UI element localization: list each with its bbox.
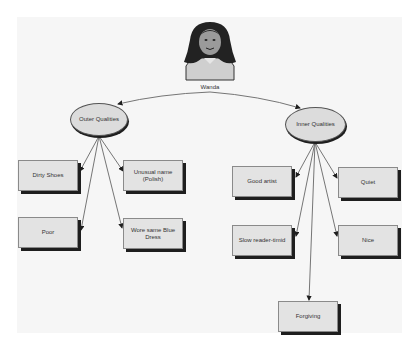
node-slow-reader-timid[interactable]: Slow reader-timid — [232, 225, 292, 256]
node-good-artist[interactable]: Good artist — [232, 166, 292, 197]
root-label: Wanda — [180, 84, 240, 90]
branch-inner-qualities[interactable]: Inner Qualities — [285, 107, 346, 142]
node-dirty-shoes[interactable]: Dirty Shoes — [18, 160, 78, 191]
node-forgiving[interactable]: Forgiving — [278, 301, 338, 332]
node-quiet[interactable]: Quiet — [338, 167, 398, 198]
branch-outer-qualities[interactable]: Outer Qualities — [70, 103, 128, 136]
node-wore-same-blue-dress[interactable]: Wore same Blue Dress — [123, 218, 183, 249]
root-node-wanda[interactable] — [180, 18, 240, 82]
girl-portrait-icon — [180, 18, 240, 82]
node-nice[interactable]: Nice — [338, 225, 398, 256]
node-poor[interactable]: Poor — [18, 217, 78, 248]
node-unusual-name[interactable]: Unusual name (Polish) — [123, 160, 183, 191]
